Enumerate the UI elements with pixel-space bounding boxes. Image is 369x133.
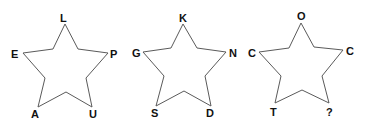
star-2-outline bbox=[143, 24, 226, 106]
star-1: L E P A U bbox=[11, 12, 117, 120]
star-letter-puzzle: L E P A U K G N S D O C C T ? bbox=[0, 0, 369, 133]
star-1-right-letter: P bbox=[110, 48, 117, 60]
star-2-left-letter: G bbox=[132, 47, 141, 59]
star-1-outline bbox=[23, 24, 108, 107]
star-1-bottom-right-letter: U bbox=[89, 108, 97, 120]
star-3-right-letter: C bbox=[346, 45, 354, 57]
star-2: K G N S D bbox=[132, 12, 237, 119]
star-3: O C C T ? bbox=[248, 10, 354, 118]
star-2-bottom-left-letter: S bbox=[151, 107, 158, 119]
star-1-bottom-left-letter: A bbox=[31, 108, 39, 120]
star-1-top-letter: L bbox=[60, 12, 67, 24]
star-3-missing-letter: ? bbox=[326, 106, 333, 118]
star-3-top-letter: O bbox=[297, 10, 306, 22]
star-1-left-letter: E bbox=[11, 48, 18, 60]
star-2-right-letter: N bbox=[229, 47, 237, 59]
star-3-left-letter: C bbox=[248, 47, 256, 59]
star-2-bottom-right-letter: D bbox=[206, 107, 214, 119]
star-3-outline bbox=[259, 23, 343, 103]
star-2-top-letter: K bbox=[179, 12, 187, 24]
star-3-bottom-left-letter: T bbox=[270, 106, 277, 118]
